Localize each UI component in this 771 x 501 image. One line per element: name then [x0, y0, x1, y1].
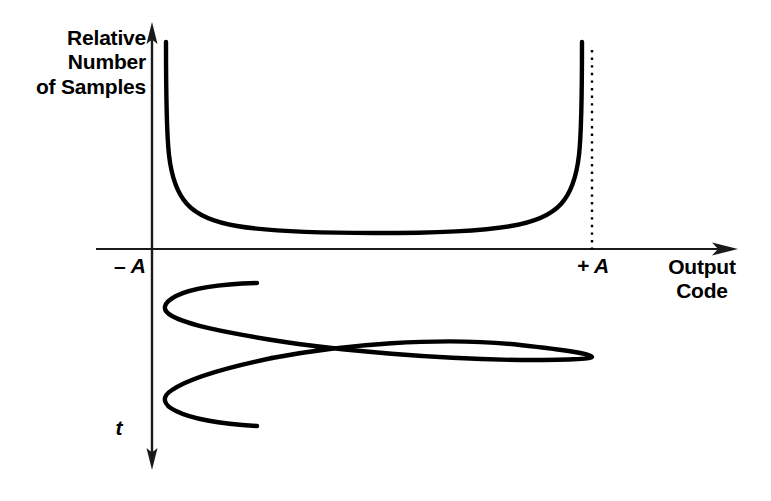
- sine-wave-upper-lobe: [165, 283, 592, 360]
- sine-wave-lower-lobe: [165, 358, 272, 426]
- negative-amplitude-label: – A: [84, 254, 146, 278]
- time-axis-label: t: [104, 416, 134, 440]
- histogram-bathtub-curve: [166, 42, 582, 233]
- x-axis-label: Output Code: [641, 255, 763, 304]
- histogram-diagram: Relative Number of Samples Output Code –…: [0, 0, 771, 501]
- positive-amplitude-label: + A: [562, 254, 624, 278]
- y-axis-label: Relative Number of Samples: [0, 26, 146, 99]
